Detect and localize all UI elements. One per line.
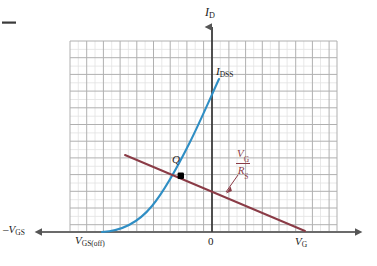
q-point-marker [178, 173, 184, 179]
vg-over-rs-label: VG RS [236, 148, 250, 179]
ratio-numerator: VG [236, 148, 250, 162]
grid-major-vertical [70, 41, 337, 232]
plot-svg [0, 0, 377, 266]
x-axis-label-negative-vgs: –VGS [3, 224, 25, 235]
q-point-label: Q [172, 154, 180, 165]
x-axis-label-vg: VG [295, 236, 307, 247]
y-axis-label-id: ID [205, 6, 215, 18]
idss-label: IDSS [216, 66, 233, 77]
figure-container: ID IDSS –VGS VGS(off) 0 VG Q VG RS [0, 0, 377, 266]
origin-label: 0 [208, 236, 214, 247]
corner-dash-mark [2, 22, 16, 24]
transfer-characteristic-curve [102, 79, 219, 232]
ratio-denominator: RS [236, 165, 250, 179]
grid-minor-vertical [78, 41, 320, 232]
vgs-off-label: VGS(off) [75, 235, 105, 246]
